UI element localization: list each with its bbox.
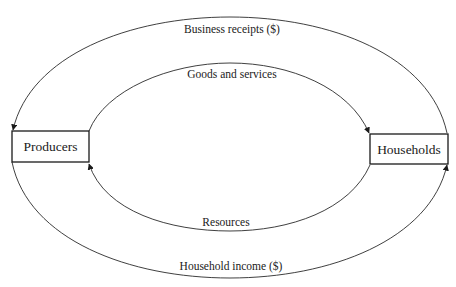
goods-services-label: Goods and services [187,68,277,80]
circular-flow-diagram: Producers Households Business receipts (… [0,0,456,287]
producers-label: Producers [24,139,78,154]
households-label: Households [377,142,441,157]
producers-node: Producers [12,131,89,162]
households-node: Households [370,134,448,164]
business-receipts-label: Business receipts ($) [184,23,280,36]
household-income-label: Household income ($) [180,260,283,273]
resources-label: Resources [202,216,250,228]
